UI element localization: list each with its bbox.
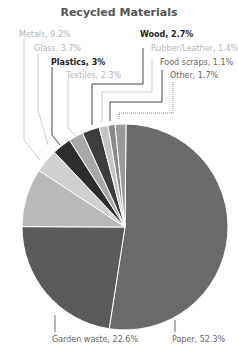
slice-garden-waste <box>22 227 125 329</box>
slice-paper <box>109 124 228 330</box>
pie-slices <box>22 124 228 330</box>
label-rubber-leather: Rubber/Leather, 1.4% <box>151 44 238 54</box>
label-paper: Paper, 52.3% <box>172 335 225 345</box>
label-food-scraps: Food scraps, 1.1% <box>160 58 233 68</box>
label-plastics: Plastics, 3% <box>51 58 105 68</box>
label-metals: Metals, 9.2% <box>19 30 71 40</box>
label-wood: Wood, 2.7% <box>140 30 193 40</box>
label-textiles: Textiles, 2.3% <box>66 71 121 81</box>
label-glass: Glass, 3.7% <box>34 44 81 54</box>
label-garden-waste: Garden waste, 22.6% <box>52 335 138 345</box>
label-other: Other, 1.7% <box>170 71 218 81</box>
